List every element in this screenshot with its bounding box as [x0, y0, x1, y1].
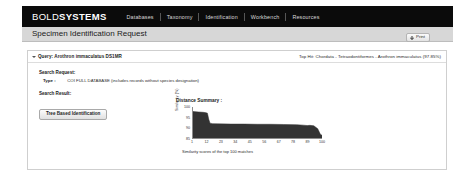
nav-item-taxonomy[interactable]: Taxonomy — [161, 14, 199, 20]
nav-items: Databases Taxonomy Identification Workbe… — [121, 13, 326, 21]
chart-x-tick: 1 — [191, 140, 193, 144]
chart-x-tick: 45 — [248, 140, 252, 144]
chart-caption: Similarity scores of the top 100 matches — [182, 149, 336, 154]
chart-y-axis-label: Similarity (%) — [175, 88, 179, 111]
nav-item-databases[interactable]: Databases — [121, 14, 160, 20]
tree-based-identification-label: Tree Based Identification — [46, 112, 100, 117]
page-title: Specimen Identification Request — [32, 29, 147, 38]
print-button-label: Print — [416, 35, 425, 39]
chart-area: Similarity (%) 100959085 112233445566778… — [176, 105, 324, 147]
chart-title: Distance Summary : — [176, 98, 336, 103]
chart-x-tick: 100 — [319, 140, 325, 144]
bold-systems-logo[interactable]: BOLDSYSTEMS — [32, 11, 107, 22]
print-button[interactable]: Print — [406, 33, 430, 42]
page-titlebar: Specimen Identification Request — [22, 27, 453, 42]
main-navbar: BOLDSYSTEMS Databases Taxonomy Identific… — [22, 6, 453, 27]
logo-text-bold: BOLD — [32, 11, 59, 22]
chart-y-tick: 90 — [181, 126, 190, 130]
chart-series-area — [193, 107, 322, 139]
chart-x-tick: 34 — [233, 140, 237, 144]
printer-icon — [410, 36, 414, 40]
specimen-identification-page: BOLDSYSTEMS Databases Taxonomy Identific… — [0, 0, 453, 176]
chart-x-tick: 78 — [291, 140, 295, 144]
tree-based-identification-button[interactable]: Tree Based Identification — [39, 109, 107, 120]
chart-y-tick: 100 — [181, 105, 190, 109]
chart-x-tick: 67 — [277, 140, 281, 144]
chart-x-ticks: 11223344556677889100 — [192, 140, 322, 146]
nav-item-identification[interactable]: Identification — [199, 14, 243, 20]
search-type-row: Type : COI FULL DATABASE (includes recor… — [43, 78, 199, 83]
chart-x-tick: 12 — [204, 140, 208, 144]
chart-plot — [192, 107, 322, 139]
chevron-down-icon[interactable] — [32, 56, 36, 58]
search-type-key: Type : — [43, 78, 67, 83]
query-header-left: Query: Arothron immaculatus DS1MR — [32, 54, 122, 59]
chart-y-tick: 85 — [181, 137, 190, 141]
chart-x-tick: 89 — [306, 140, 310, 144]
chart-y-tick: 95 — [181, 116, 190, 120]
search-type-value: COI FULL DATABASE (includes records with… — [67, 78, 199, 83]
query-label: Query: Arothron immaculatus DS1MR — [38, 54, 122, 59]
chart-x-tick: 23 — [219, 140, 223, 144]
chart-x-tick: 56 — [262, 140, 266, 144]
top-hit-label: Top Hit: Chordata - Tetraodontiformes - … — [299, 54, 441, 59]
result-panel: Query: Arothron immaculatus DS1MR Top Hi… — [27, 50, 447, 170]
nav-item-resources[interactable]: Resources — [286, 14, 325, 20]
query-header-row[interactable]: Query: Arothron immaculatus DS1MR Top Hi… — [28, 51, 446, 63]
logo-text-systems: SYSTEMS — [59, 11, 107, 22]
search-request-heading: Search Request: — [39, 70, 199, 75]
nav-item-workbench[interactable]: Workbench — [245, 14, 286, 20]
distance-summary-chart: Distance Summary : Similarity (%) 100959… — [176, 98, 336, 154]
